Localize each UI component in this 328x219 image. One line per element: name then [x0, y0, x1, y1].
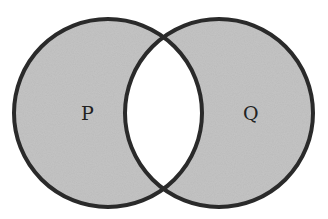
set-p-label: P	[81, 104, 94, 123]
venn-svg	[0, 0, 328, 219]
set-q-label: Q	[243, 104, 259, 123]
venn-diagram: P Q	[0, 0, 328, 219]
